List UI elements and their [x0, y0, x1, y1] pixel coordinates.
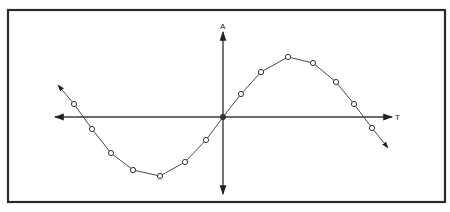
- time-axis-label: T: [395, 113, 400, 122]
- sine-wave-diagram: A T: [0, 0, 450, 212]
- sample-point: [369, 125, 374, 130]
- sample-point: [203, 137, 208, 142]
- curve-start-arrow: [58, 85, 74, 104]
- sample-point: [351, 101, 356, 106]
- sample-point: [258, 69, 263, 74]
- amplitude-axis-label: A: [220, 22, 226, 31]
- curve-end-arrow: [372, 128, 388, 148]
- sample-point: [238, 91, 243, 96]
- sample-point: [157, 173, 162, 178]
- sample-point: [182, 159, 187, 164]
- sample-point: [285, 54, 290, 59]
- sample-point: [108, 150, 113, 155]
- sample-point: [310, 60, 315, 65]
- sample-point: [333, 79, 338, 84]
- origin-point: [220, 114, 225, 119]
- sample-point: [71, 101, 76, 106]
- sample-point: [89, 126, 94, 131]
- sample-point: [130, 167, 135, 172]
